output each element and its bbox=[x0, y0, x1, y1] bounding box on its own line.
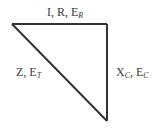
impedance-label: Z, ET bbox=[16, 66, 41, 80]
reactance-label: XC, EC bbox=[116, 66, 149, 80]
resistance-label-text: I, R, E bbox=[47, 5, 78, 19]
resistance-label: I, R, ER bbox=[47, 6, 83, 20]
impedance-label-subscript: T bbox=[37, 71, 41, 80]
reactance-label-e-subscript: C bbox=[143, 71, 148, 80]
resistance-label-subscript: R bbox=[78, 11, 83, 20]
impedance-triangle-diagram: I, R, ER Z, ET XC, EC bbox=[0, 0, 157, 130]
reactance-label-e: , E bbox=[130, 65, 143, 79]
reactance-label-x: X bbox=[116, 65, 125, 79]
impedance-label-text: Z, E bbox=[16, 65, 37, 79]
